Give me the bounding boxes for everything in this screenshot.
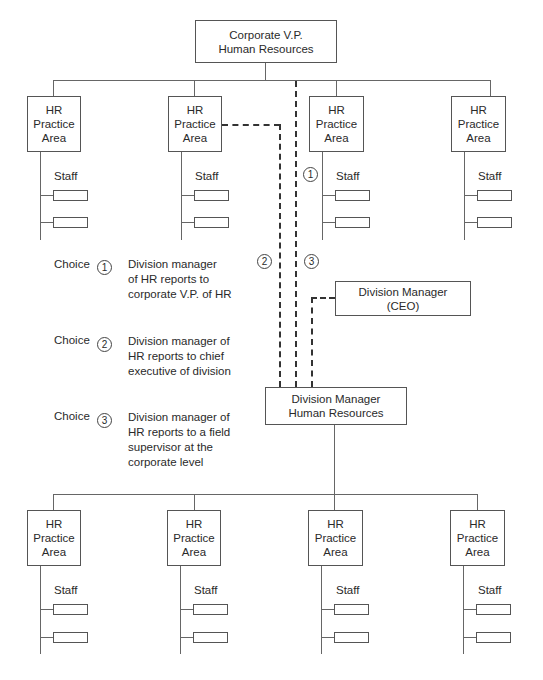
top-practice-area-4: HR Practice Area: [451, 96, 506, 152]
practice-area-text: HR: [46, 517, 63, 531]
staff-label: Staff: [478, 584, 501, 596]
connector: [336, 80, 337, 96]
description-line: Division manager: [128, 257, 278, 272]
staff-position-box: [193, 604, 228, 615]
division-manager-ceo-box: Division Manager (CEO): [335, 281, 471, 316]
staff-position-box: [476, 604, 511, 615]
staff-stem: [180, 566, 181, 654]
staff-position-box: [477, 217, 512, 228]
ceo-title: Division Manager: [359, 285, 448, 299]
connector: [322, 195, 335, 196]
ceo-dashed-line: [311, 297, 313, 387]
practice-area-text: Area: [42, 545, 66, 559]
connector: [490, 80, 491, 96]
choice-3-legend-marker: 3: [97, 413, 112, 428]
top-horizontal-connector: [53, 80, 491, 81]
practice-area-text: Practice: [316, 117, 358, 131]
staff-label: Staff: [54, 170, 77, 182]
practice-area-text: Area: [42, 131, 66, 145]
description-line: of HR reports to: [128, 272, 278, 287]
staff-position-box: [53, 604, 88, 615]
bottom-practice-area-2: HR Practice Area: [167, 510, 221, 566]
staff-stem: [464, 152, 465, 240]
description-line: HR reports to a field: [128, 425, 278, 440]
practice-area-text: HR: [46, 103, 63, 117]
staff-position-box: [53, 632, 88, 643]
description-line: HR reports to chief: [128, 349, 278, 364]
practice-area-text: Area: [183, 131, 207, 145]
staff-label: Staff: [336, 170, 359, 182]
top-practice-area-1: HR Practice Area: [27, 96, 81, 152]
practice-area-text: Practice: [174, 117, 216, 131]
connector: [321, 637, 334, 638]
practice-area-text: Area: [323, 545, 347, 559]
bottom-practice-area-3: HR Practice Area: [308, 510, 363, 566]
division-manager-hr-box: Division Manager Human Resources: [265, 387, 407, 425]
choice-1-description: Division manager of HR reports to corpor…: [128, 257, 278, 302]
practice-area-text: Area: [465, 545, 489, 559]
connector: [53, 494, 54, 510]
practice-area-text: Area: [466, 131, 490, 145]
choice-2-dashed-line: [222, 124, 280, 126]
choice-3-dashed-line: [295, 81, 297, 387]
bottom-practice-area-1: HR Practice Area: [27, 510, 81, 566]
staff-stem: [181, 152, 182, 240]
staff-position-box: [53, 190, 88, 201]
practice-area-text: Practice: [173, 531, 215, 545]
choice-1-label: Choice: [54, 258, 90, 270]
staff-stem: [463, 566, 464, 654]
practice-area-text: Practice: [315, 531, 357, 545]
practice-area-text: Practice: [458, 117, 500, 131]
connector: [40, 637, 53, 638]
connector: [181, 222, 194, 223]
practice-area-text: HR: [187, 103, 204, 117]
bottom-practice-area-4: HR Practice Area: [450, 510, 505, 566]
connector: [180, 609, 193, 610]
connector: [40, 222, 53, 223]
connector: [321, 609, 334, 610]
connector: [334, 425, 335, 494]
top-practice-area-3: HR Practice Area: [309, 96, 364, 152]
description-line: supervisor at the: [128, 440, 278, 455]
staff-position-box: [476, 632, 511, 643]
top-practice-area-2: HR Practice Area: [168, 96, 222, 152]
corporate-vp-subtitle: Human Resources: [218, 42, 313, 56]
practice-area-text: HR: [327, 517, 344, 531]
choice-2-description: Division manager of HR reports to chief …: [128, 334, 278, 379]
connector: [194, 494, 195, 510]
staff-stem: [40, 152, 41, 240]
division-hr-subtitle: Human Resources: [288, 406, 383, 420]
connector: [194, 80, 195, 96]
practice-area-text: HR: [470, 103, 487, 117]
choice-2-legend-marker: 2: [97, 337, 112, 352]
practice-area-text: HR: [328, 103, 345, 117]
description-line: corporate level: [128, 455, 278, 470]
connector: [477, 494, 478, 510]
description-line: Division manager of: [128, 410, 278, 425]
choice-1-legend-marker: 1: [97, 260, 112, 275]
description-line: corporate V.P. of HR: [128, 287, 278, 302]
connector: [40, 195, 53, 196]
practice-area-text: Practice: [33, 117, 75, 131]
choice-1-marker: 1: [303, 167, 318, 182]
choice-3-label: Choice: [54, 410, 90, 422]
staff-position-box: [193, 632, 228, 643]
corporate-vp-hr-box: Corporate V.P. Human Resources: [195, 20, 337, 63]
connector: [181, 195, 194, 196]
connector: [40, 609, 53, 610]
staff-stem: [322, 152, 323, 240]
staff-label: Staff: [336, 584, 359, 596]
corporate-vp-title: Corporate V.P.: [229, 28, 303, 42]
practice-area-text: HR: [186, 517, 203, 531]
staff-position-box: [194, 217, 229, 228]
connector: [265, 63, 266, 80]
connector: [322, 222, 335, 223]
staff-position-box: [194, 190, 229, 201]
connector: [463, 609, 476, 610]
staff-label: Staff: [54, 584, 77, 596]
choice-2-dashed-line: [279, 124, 281, 387]
division-hr-title: Division Manager: [292, 392, 381, 406]
staff-position-box: [335, 217, 370, 228]
description-line: Division manager of: [128, 334, 278, 349]
description-line: executive of division: [128, 364, 278, 379]
